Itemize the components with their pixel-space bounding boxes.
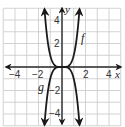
x-axis-label: x (114, 68, 120, 80)
x-tick-label: 2 (83, 69, 89, 80)
function-graph: −4 −2 2 4 x 4 2 −2 −4 y f g (0, 0, 125, 127)
x-tick-label: −4 (9, 69, 21, 80)
x-tick-label: −2 (32, 69, 44, 80)
y-tick-label: −2 (49, 85, 61, 96)
curve-label-g: g (38, 80, 44, 94)
y-tick-label: −4 (49, 108, 61, 119)
y-tick-label: 2 (54, 38, 60, 49)
y-axis-label: y (64, 3, 70, 15)
x-tick-label: 4 (106, 69, 112, 80)
y-tick-label: 4 (54, 15, 60, 26)
